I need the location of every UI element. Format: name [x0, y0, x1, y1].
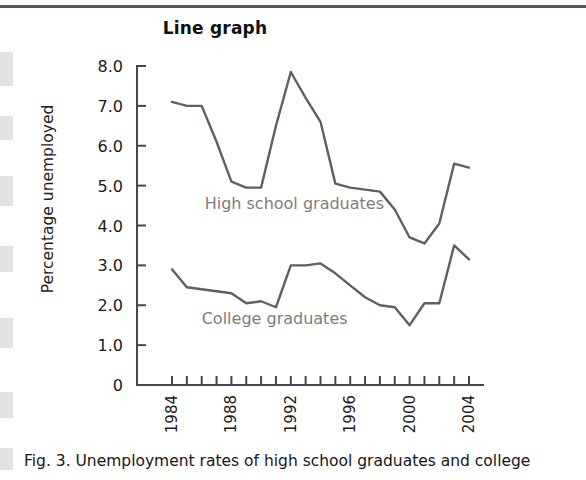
y-tick-label: 3.0 — [98, 256, 123, 275]
series-label: High school graduates — [205, 194, 384, 213]
x-tick-label: 1988 — [222, 395, 240, 433]
x-axis-ticks — [172, 376, 469, 385]
x-tick-label: 2000 — [401, 395, 419, 433]
y-tick-label: 2.0 — [98, 296, 123, 315]
chart-axes — [137, 66, 483, 385]
y-tick-label: 0 — [113, 376, 123, 395]
series-label: College graduates — [202, 309, 348, 328]
x-tick-label: 1992 — [282, 395, 300, 433]
figure-page: Line graph Percentage unemployed 01.02.0… — [0, 0, 586, 480]
x-axis-tick-labels: 198419881992199620002004 — [163, 395, 478, 433]
series-inline-labels: High school graduatesCollege graduates — [202, 194, 384, 329]
data-series-line — [172, 72, 469, 243]
y-axis-ticks — [137, 66, 146, 345]
y-tick-label: 5.0 — [98, 177, 123, 196]
y-tick-label: 1.0 — [98, 336, 123, 355]
x-tick-label: 1996 — [341, 395, 359, 433]
y-axis-tick-labels: 01.02.03.04.05.06.07.08.0 — [98, 57, 123, 395]
y-tick-label: 7.0 — [98, 97, 123, 116]
x-tick-label: 1984 — [163, 395, 181, 433]
y-tick-label: 8.0 — [98, 57, 123, 76]
figure-caption: Fig. 3. Unemployment rates of high schoo… — [24, 452, 580, 470]
line-chart: 01.02.03.04.05.06.07.08.0 19841988199219… — [0, 0, 586, 480]
x-tick-label: 2004 — [460, 395, 478, 433]
y-tick-label: 6.0 — [98, 137, 123, 156]
y-tick-label: 4.0 — [98, 217, 123, 236]
